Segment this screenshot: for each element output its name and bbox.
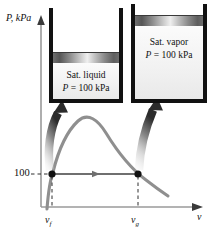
vf-subscript: f bbox=[49, 220, 51, 228]
x-axis bbox=[41, 203, 203, 211]
saturated-liquid-cylinder: Sat. liquid P = 100 kPa bbox=[49, 8, 123, 103]
pressure-value-liquid: = 100 kPa bbox=[68, 83, 109, 93]
cylinder-wall-right-right-device bbox=[203, 4, 207, 103]
y-axis bbox=[37, 15, 45, 207]
vapor-state-callout-arrow bbox=[139, 97, 163, 170]
liquid-label-line1: Sat. liquid bbox=[53, 69, 119, 81]
y-axis-tick-100: 100 bbox=[14, 167, 30, 178]
pv-diagram-figure: Sat. liquid P = 100 kPa Sat. vapor P = 1… bbox=[0, 0, 212, 239]
cylinder-wall-right bbox=[119, 8, 123, 103]
liquid-state-callout-arrow bbox=[49, 100, 68, 170]
x-axis-label: v bbox=[197, 211, 201, 222]
saturated-vapor-state-marker bbox=[134, 170, 141, 177]
cylinder-base-right bbox=[131, 99, 207, 103]
saturated-vapor-cylinder: Sat. vapor P = 100 kPa bbox=[131, 4, 207, 103]
pressure-value-vapor: = 100 kPa bbox=[151, 50, 192, 60]
cylinder-base bbox=[49, 99, 123, 103]
y-axis-label: P, kPa bbox=[6, 12, 31, 23]
cylinder-open-space-right bbox=[135, 4, 203, 15]
constant-pressure-process-line bbox=[52, 171, 138, 177]
liquid-label-line2: P = 100 kPa bbox=[53, 82, 119, 94]
x-axis-tick-vg: vg bbox=[131, 214, 139, 228]
cylinder-open-space bbox=[53, 8, 119, 52]
vg-subscript: g bbox=[135, 220, 139, 228]
x-axis-tick-vf: vf bbox=[45, 214, 51, 228]
vapor-label-line1: Sat. vapor bbox=[135, 36, 203, 48]
vapor-label-line2: P = 100 kPa bbox=[135, 49, 203, 61]
saturated-liquid-state-marker bbox=[48, 170, 55, 177]
